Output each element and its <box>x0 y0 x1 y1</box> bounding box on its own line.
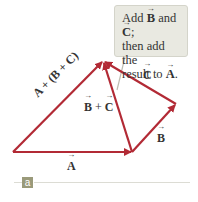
callout-line-3: result to A. <box>122 67 183 81</box>
panel-label: a <box>22 177 33 188</box>
label-c: C <box>143 68 152 83</box>
vector-b <box>132 105 175 152</box>
label-b: B <box>157 131 165 146</box>
panel-divider <box>34 182 190 183</box>
label-a: A <box>67 159 76 174</box>
panel-divider-left <box>14 182 22 183</box>
label-b-plus-c: B + C <box>84 100 113 115</box>
callout-box: Add B and C; then add the result to A. <box>114 5 188 57</box>
callout-line-1: Add B and C; <box>122 11 183 39</box>
